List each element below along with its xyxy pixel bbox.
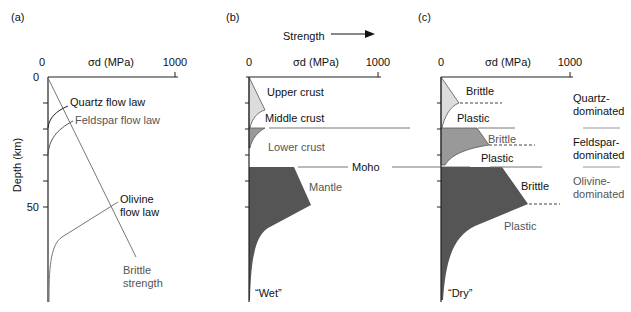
panel-c: (c) 0 σd (MPa) 1000 Brittle Plastic Brit… <box>418 11 624 302</box>
panel-a: (a) 0 σd (MPa) 1000 0 50 Depth (km) Quar… <box>11 11 187 302</box>
quartz-dominated-label-2: dominated <box>573 105 624 117</box>
x-tick-1000: 1000 <box>558 56 582 68</box>
brittle-label-3: Brittle <box>521 180 549 192</box>
lower-crust-fill <box>249 128 265 148</box>
y-axis-label: Depth (km) <box>11 138 23 192</box>
mantle-fill <box>249 167 311 300</box>
x-tick-0: 0 <box>438 56 444 68</box>
brittle-label-2: Brittle <box>488 133 516 145</box>
figure-canvas: (a) 0 σd (MPa) 1000 0 50 Depth (km) Quar… <box>0 0 631 312</box>
x-tick-0: 0 <box>246 56 252 68</box>
wet-label: “Wet” <box>255 287 282 299</box>
upper-crust-fill <box>249 77 265 128</box>
strength-profile-figure: (a) 0 σd (MPa) 1000 0 50 Depth (km) Quar… <box>0 0 631 312</box>
olivine-dominated-label-2: dominated <box>573 188 624 200</box>
panel-a-label: (a) <box>11 11 24 23</box>
feldspar-dominated-label-1: Feldspar- <box>573 136 620 148</box>
lower-crust-label: Lower crust <box>268 141 325 153</box>
plastic-label-1: Plastic <box>457 112 490 124</box>
dry-label: “Dry” <box>448 287 473 299</box>
moho-label: Moho <box>352 161 380 173</box>
feldspar-dominated-label-2: dominated <box>573 149 624 161</box>
olivine-label-1: Olivine <box>120 193 154 205</box>
brittle-strength-label-1: Brittle <box>123 264 151 276</box>
panel-b: (b) Strength 0 σd (MPa) 1000 Upper crust… <box>226 11 470 302</box>
olivine-dominated-label-1: Olivine- <box>573 175 611 187</box>
x-tick-1000: 1000 <box>366 56 390 68</box>
x-axis-label: σd (MPa) <box>293 56 339 68</box>
olivine-zone-fill <box>441 167 528 300</box>
strength-label: Strength <box>283 30 325 42</box>
x-tick-1000: 1000 <box>163 56 187 68</box>
quartz-flow-law-label: Quartz flow law <box>70 96 145 108</box>
plastic-label-3: Plastic <box>504 220 537 232</box>
mantle-label: Mantle <box>309 181 342 193</box>
x-axis-label: σd (MPa) <box>88 56 134 68</box>
brittle-label-1: Brittle <box>466 85 494 97</box>
x-tick-0: 0 <box>39 56 45 68</box>
plastic-label-2: Plastic <box>481 152 514 164</box>
upper-crust-label: Upper crust <box>267 86 324 98</box>
middle-crust-label: Middle crust <box>265 112 324 124</box>
panel-b-label: (b) <box>226 11 239 23</box>
y-tick-50: 50 <box>27 201 39 213</box>
olivine-label-2: flow law <box>120 206 159 218</box>
arrow-right-icon <box>365 30 375 38</box>
feldspar-flow-law-label: Feldspar flow law <box>75 114 160 126</box>
y-tick-0: 0 <box>33 71 39 83</box>
panel-c-label: (c) <box>418 11 431 23</box>
x-axis-label: σd (MPa) <box>485 56 531 68</box>
brittle-strength-label-2: strength <box>123 277 163 289</box>
quartz-dominated-label-1: Quartz- <box>573 92 610 104</box>
